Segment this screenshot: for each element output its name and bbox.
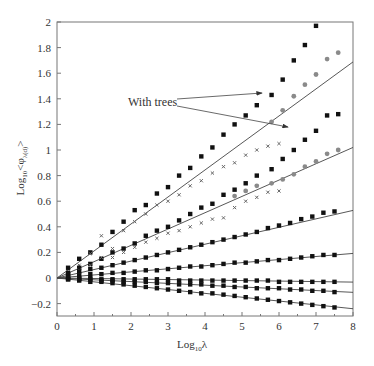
- data-point: [133, 269, 137, 273]
- data-point: [199, 291, 203, 295]
- data-point: [166, 250, 170, 254]
- data-point: [310, 214, 314, 218]
- data-point: [155, 281, 159, 285]
- data-point: [188, 278, 192, 282]
- data-point: [310, 289, 314, 293]
- data-point: [325, 113, 329, 117]
- data-point: [166, 185, 170, 189]
- data-point: [325, 151, 330, 156]
- data-point: [266, 258, 270, 262]
- x-tick-label: 3: [165, 320, 171, 332]
- data-point: [244, 113, 248, 117]
- data-point: [66, 266, 70, 270]
- data-point: [121, 271, 125, 275]
- x-tick-label: 5: [239, 320, 245, 332]
- data-point: [177, 278, 181, 282]
- data-point: [288, 287, 292, 291]
- data-point: [277, 258, 281, 262]
- data-point: [277, 142, 280, 145]
- data-point: [77, 269, 81, 273]
- data-point: [325, 57, 330, 62]
- data-point: [299, 217, 303, 221]
- data-point: [288, 280, 292, 284]
- data-point: [99, 266, 103, 270]
- y-axis-title: Log10<φλ(d)>: [14, 140, 29, 195]
- data-point: [221, 283, 225, 287]
- data-point: [244, 232, 248, 236]
- data-point: [233, 161, 236, 164]
- data-point: [221, 262, 225, 266]
- data-point: [77, 278, 81, 282]
- data-point: [303, 82, 308, 87]
- data-point: [99, 280, 103, 284]
- data-point: [166, 200, 169, 203]
- x-tick-label: 2: [128, 320, 134, 332]
- data-point: [255, 173, 259, 177]
- data-point: [332, 290, 336, 294]
- data-point: [232, 260, 236, 264]
- x-tick-label: 8: [350, 320, 356, 332]
- data-point: [244, 278, 248, 282]
- data-point: [332, 209, 336, 213]
- data-point: [255, 148, 258, 151]
- data-point: [277, 280, 281, 284]
- data-point: [199, 243, 203, 247]
- data-point: [200, 179, 203, 182]
- data-point: [166, 225, 170, 229]
- data-point: [133, 246, 136, 249]
- data-point: [281, 77, 285, 81]
- data-point: [255, 259, 259, 263]
- data-point: [321, 253, 325, 257]
- x-axis: 012345678: [54, 312, 356, 332]
- data-point: [99, 272, 103, 276]
- data-point: [266, 278, 270, 282]
- data-point: [269, 93, 273, 97]
- x-tick-label: 1: [91, 320, 97, 332]
- data-point: [88, 267, 92, 271]
- annotation: With trees: [128, 93, 288, 127]
- data-point: [188, 245, 192, 249]
- data-point: [232, 294, 236, 298]
- data-point: [188, 290, 192, 294]
- data-point: [155, 253, 159, 257]
- plot-frame: [57, 22, 353, 316]
- x-axis-title: Log10λ: [177, 338, 208, 353]
- arrow-icon: [177, 93, 262, 99]
- data-point: [303, 43, 307, 47]
- data-point: [299, 301, 303, 305]
- data-point: [122, 251, 125, 254]
- data-point: [314, 24, 318, 28]
- data-point: [332, 305, 336, 309]
- data-point: [255, 286, 259, 290]
- data-point: [111, 256, 114, 259]
- data-point: [281, 157, 285, 161]
- x-tick-label: 7: [313, 320, 319, 332]
- data-point: [110, 263, 114, 267]
- data-point: [299, 287, 303, 291]
- fit-lines: [57, 62, 353, 309]
- data-point: [244, 285, 248, 289]
- data-point: [266, 191, 269, 194]
- data-point: [144, 203, 148, 207]
- data-point: [177, 173, 181, 177]
- data-point: [221, 278, 225, 282]
- data-point: [155, 286, 159, 290]
- data-point: [199, 205, 203, 209]
- x-tick-label: 0: [54, 320, 60, 332]
- data-point: [155, 203, 158, 206]
- data-point: [210, 240, 214, 244]
- y-tick-label: 1.8: [37, 42, 51, 54]
- data-point: [291, 94, 296, 99]
- data-point: [244, 200, 247, 203]
- chart: 012345678 −0.200.20.40.60.811.21.41.61.8…: [0, 0, 374, 366]
- data-point: [155, 191, 159, 195]
- data-point: [332, 280, 336, 284]
- data-point: [166, 232, 169, 235]
- data-point: [244, 154, 247, 157]
- y-tick-label: 1.2: [37, 118, 51, 130]
- y-tick-label: 2: [46, 16, 52, 28]
- data-point: [266, 226, 270, 230]
- data-point: [144, 241, 147, 244]
- data-point: [189, 184, 192, 187]
- y-tick-label: 0.8: [37, 170, 51, 182]
